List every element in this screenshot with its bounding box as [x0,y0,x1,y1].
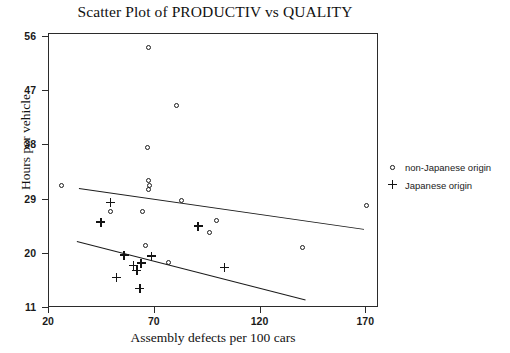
legend-item-label: Japanese origin [402,180,472,191]
x-axis-tick-label: 70 [134,315,174,327]
y-axis-tick-label: 29 [12,193,36,205]
data-point-japanese [132,266,141,275]
scatter-plot-figure: Scatter Plot of PRODUCTIV vs QUALITY Hou… [0,0,510,353]
data-point-non-japanese [59,183,64,188]
data-point-non-japanese [140,209,145,214]
data-point-japanese [96,218,105,227]
fit-line-non-japanese [78,188,364,230]
fit-line-japanese [76,241,305,300]
legend-item-japanese[interactable]: Japanese origin [388,176,491,194]
data-point-non-japanese [214,218,219,223]
plot-area [48,33,378,307]
legend: non-Japanese origin Japanese origin [388,158,491,194]
data-point-japanese [112,273,121,282]
data-point-non-japanese [174,103,179,108]
x-axis-tick-label: 170 [345,315,385,327]
data-point-japanese [220,263,229,272]
data-point-non-japanese [145,145,150,150]
circle-marker-icon [388,161,402,173]
x-axis-tick-label: 20 [28,315,68,327]
data-point-non-japanese [300,245,305,250]
page-title: Scatter Plot of PRODUCTIV vs QUALITY [0,3,430,21]
data-point-non-japanese [108,209,113,214]
legend-item-label: non-Japanese origin [402,162,491,173]
y-axis-tick-label: 20 [12,247,36,259]
data-point-non-japanese [364,203,369,208]
plus-marker-icon [388,179,402,191]
y-axis-tick-label: 56 [12,30,36,42]
data-point-non-japanese [146,187,151,192]
x-axis-tick-label: 120 [240,315,280,327]
x-axis-label: Assembly defects per 100 cars [48,330,378,346]
y-axis-tick-label: 11 [12,301,36,313]
data-point-japanese [135,284,144,293]
plot-canvas [49,34,379,308]
data-point-non-japanese [143,243,148,248]
data-point-japanese [194,222,203,231]
y-axis-tick-label: 47 [12,84,36,96]
data-point-non-japanese [207,230,212,235]
data-point-non-japanese [146,45,151,50]
y-axis-tick-label: 38 [12,138,36,150]
data-point-japanese [106,198,115,207]
legend-item-non-japanese[interactable]: non-Japanese origin [388,158,491,176]
